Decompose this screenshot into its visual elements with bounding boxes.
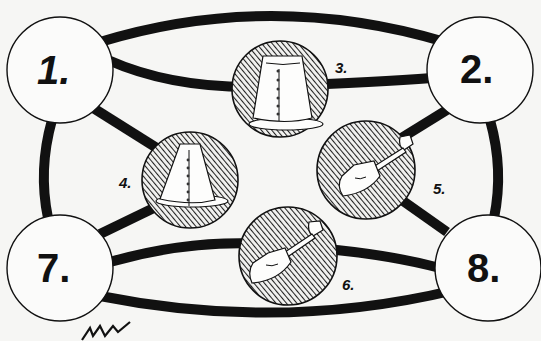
scribble-mark	[82, 322, 130, 340]
node-7: 7.	[7, 215, 113, 321]
node-5	[317, 121, 415, 219]
node-1: 1.	[7, 17, 113, 123]
node-8: 8.	[435, 215, 541, 321]
node-4-label: 4.	[118, 174, 132, 191]
node-2-label: 2.	[460, 47, 493, 91]
node-6	[239, 207, 337, 305]
node-2: 2.	[427, 17, 533, 123]
edge-1-2-outer	[100, 16, 445, 42]
node-1-label: 1.	[37, 48, 70, 92]
edge-2-8	[490, 120, 498, 218]
node-4	[142, 132, 238, 228]
node-8-label: 8.	[467, 246, 500, 290]
node-3	[232, 41, 328, 137]
node-3-label: 3.	[335, 59, 348, 76]
node-7-label: 7.	[37, 246, 70, 290]
network-diagram: 1. 2. 7. 8. 3.	[0, 0, 541, 341]
node-5-label: 5.	[433, 180, 446, 197]
node-6-label: 6.	[342, 276, 355, 293]
edge-1-7	[44, 120, 52, 218]
edge-4-7	[100, 205, 160, 234]
edge-1-4	[90, 106, 160, 150]
